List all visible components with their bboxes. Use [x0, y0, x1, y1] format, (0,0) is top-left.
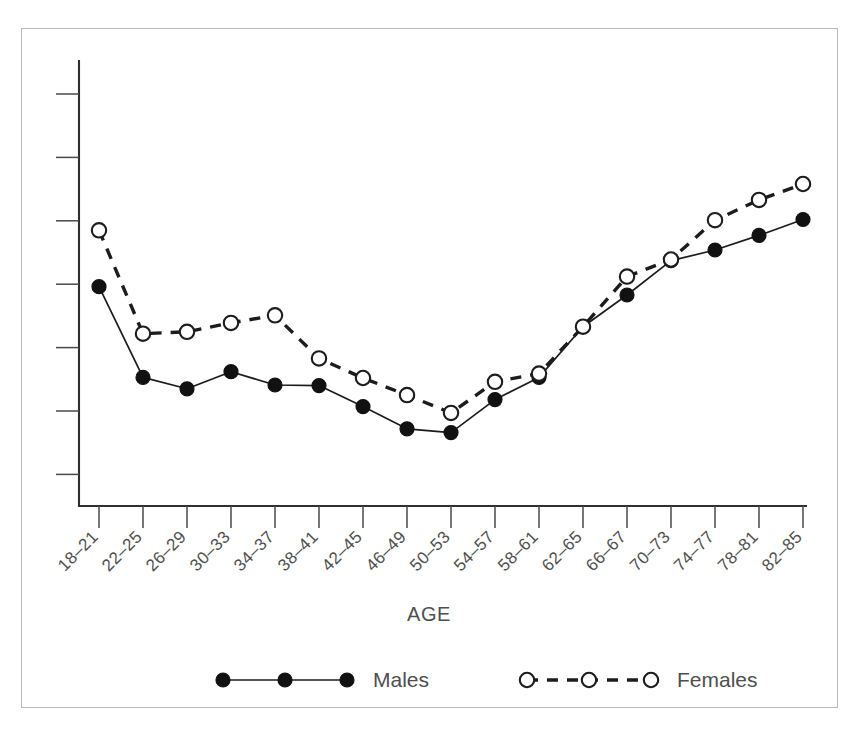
x-axis-tick-label: 58–61 — [494, 527, 542, 575]
data-point-males — [488, 393, 502, 407]
data-point-females — [268, 308, 282, 322]
legend-marker-males — [216, 673, 230, 687]
data-point-males — [400, 422, 414, 436]
x-axis-ticks — [99, 506, 803, 528]
y-axis-ticks — [56, 94, 79, 474]
data-point-females — [180, 325, 194, 339]
x-axis-tick-label: 26–29 — [142, 527, 190, 575]
series-line-males — [99, 220, 803, 433]
x-axis-tick-label: 18–21 — [54, 527, 102, 575]
data-point-females — [400, 388, 414, 402]
x-axis-tick-label: 30–33 — [186, 527, 234, 575]
data-point-females — [444, 406, 458, 420]
x-axis-tick-label: 46–49 — [362, 527, 410, 575]
data-point-females — [356, 371, 370, 385]
x-axis-tick-label: 70–73 — [626, 527, 674, 575]
legend-label-males: Males — [373, 668, 429, 691]
data-point-males — [180, 382, 194, 396]
x-axis-tick-label: 82–85 — [758, 527, 806, 575]
data-point-males — [444, 426, 458, 440]
line-chart: 18–2122–2526–2930–3334–3738–4142–4546–49… — [22, 29, 837, 707]
data-point-males — [312, 379, 326, 393]
data-point-females — [312, 351, 326, 365]
data-point-females — [708, 213, 722, 227]
legend-marker-females — [644, 673, 658, 687]
data-point-females — [136, 327, 150, 341]
series-line-females — [99, 184, 803, 413]
data-point-females — [92, 223, 106, 237]
data-point-females — [224, 316, 238, 330]
data-point-females — [532, 366, 546, 380]
x-axis-tick-label: 38–41 — [274, 527, 322, 575]
x-axis-tick-label: 54–57 — [450, 527, 498, 575]
data-point-females — [620, 269, 634, 283]
x-axis-title: AGE — [407, 603, 451, 625]
x-axis-tick-label: 74–77 — [670, 527, 718, 575]
series-lines — [99, 184, 803, 433]
data-point-males — [708, 243, 722, 257]
axis-lines — [79, 61, 806, 506]
x-axis-tick-labels: 18–2122–2526–2930–3334–3738–4142–4546–49… — [54, 527, 806, 575]
x-axis-tick-label: 62–65 — [538, 527, 586, 575]
x-axis-tick-label: 66–67 — [582, 527, 630, 575]
chart-frame-border: 18–2122–2526–2930–3334–3738–4142–4546–49… — [21, 28, 838, 708]
data-point-males — [356, 400, 370, 414]
data-point-females — [752, 193, 766, 207]
series-markers — [92, 177, 810, 440]
data-point-females — [488, 375, 502, 389]
x-axis-tick-label: 42–45 — [318, 527, 366, 575]
data-point-males — [268, 378, 282, 392]
data-point-males — [752, 228, 766, 242]
legend-marker-females — [582, 673, 596, 687]
chart-axes — [79, 61, 806, 506]
legend-marker-females — [520, 673, 534, 687]
data-point-females — [576, 320, 590, 334]
legend-marker-males — [278, 673, 292, 687]
x-axis-tick-label: 34–37 — [230, 527, 278, 575]
chart-page: 18–2122–2526–2930–3334–3738–4142–4546–49… — [0, 0, 863, 734]
data-point-males — [224, 365, 238, 379]
data-point-males — [136, 370, 150, 384]
data-point-males — [620, 288, 634, 302]
data-point-males — [796, 213, 810, 227]
legend-marker-males — [340, 673, 354, 687]
data-point-females — [796, 177, 810, 191]
data-point-females — [664, 252, 678, 266]
data-point-males — [92, 280, 106, 294]
x-axis-tick-label: 22–25 — [98, 527, 146, 575]
x-axis-tick-label: 50–53 — [406, 527, 454, 575]
legend-label-females: Females — [677, 668, 758, 691]
chart-legend: MalesFemales — [216, 668, 758, 691]
x-axis-tick-label: 78–81 — [714, 527, 762, 575]
